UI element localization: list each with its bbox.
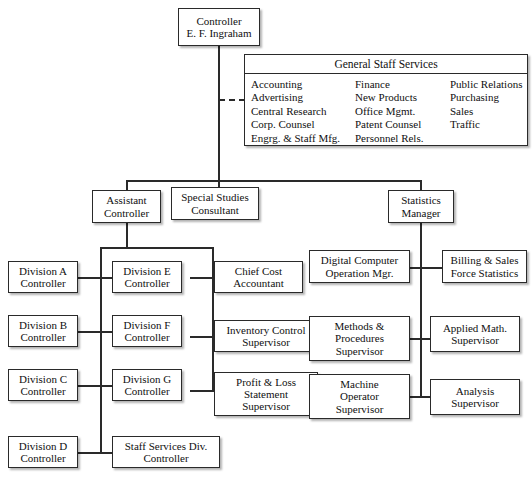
box-line: Digital Computer — [321, 254, 398, 266]
box-line: Procedures — [335, 332, 385, 344]
box-profit-loss-statement-supervisor[interactable]: Profit & Loss Statement Supervisor — [214, 372, 318, 416]
staff-item: Public Relations — [450, 78, 522, 91]
box-line: Statistics — [401, 194, 441, 206]
box-inventory-control-supervisor[interactable]: Inventory Control Supervisor — [214, 320, 318, 352]
box-line: Division C — [19, 373, 67, 385]
box-line: Applied Math. — [443, 322, 507, 334]
box-line: Controller — [19, 277, 67, 289]
staff-item: Personnel Rels. — [355, 132, 450, 145]
box-line: Operation Mgr. — [321, 267, 398, 279]
box-line: Supervisor — [335, 345, 385, 357]
staff-item: Advertising — [251, 91, 355, 104]
connector-staff-services-div-stub — [100, 452, 112, 454]
box-line: Supervisor — [451, 397, 499, 409]
staff-item: Accounting — [251, 78, 355, 91]
box-analysis-supervisor[interactable]: Analysis Supervisor — [430, 379, 520, 415]
box-division-f-controller[interactable]: Division F Controller — [112, 315, 182, 347]
staff-services-column-2: Finance New Products Office Mgmt. Patent… — [355, 78, 450, 145]
box-division-a-controller[interactable]: Division A Controller — [8, 261, 78, 293]
box-line: Controller — [123, 385, 172, 397]
general-staff-services-title: General Staff Services — [245, 55, 527, 74]
box-line: Billing & Sales — [451, 254, 519, 266]
box-line: Controller — [124, 331, 171, 343]
box-line: Accountant — [233, 277, 284, 289]
box-special-studies-consultant[interactable]: Special Studies Consultant — [171, 187, 259, 220]
staff-item: Finance — [355, 78, 450, 91]
box-line: Staff Services Div. — [125, 440, 207, 452]
staff-item: New Products — [355, 91, 450, 104]
connector-inventory-stub — [190, 336, 214, 338]
box-line: Machine — [336, 378, 384, 390]
box-line: Chief Cost — [233, 265, 284, 277]
box-division-b-controller[interactable]: Division B Controller — [8, 315, 78, 347]
box-division-c-controller[interactable]: Division C Controller — [8, 369, 78, 401]
staff-item: Purchasing — [450, 91, 522, 104]
box-staff-services-div-controller[interactable]: Staff Services Div. Controller — [112, 436, 220, 468]
box-line: Division F — [124, 319, 171, 331]
staff-services-column-1: Accounting Advertising Central Research … — [251, 78, 355, 145]
box-line: Division E — [123, 265, 170, 277]
box-line: Supervisor — [336, 403, 384, 415]
box-line: Controller — [125, 452, 207, 464]
box-line: Controller — [19, 385, 67, 397]
box-billing-sales-force-statistics[interactable]: Billing & Sales Force Statistics — [442, 250, 527, 283]
staff-item: Central Research — [251, 105, 355, 118]
staff-services-column-3: Public Relations Purchasing Sales Traffi… — [450, 78, 522, 145]
box-line: Force Statistics — [451, 267, 519, 279]
box-line: Inventory Control — [226, 324, 305, 336]
connector-division-f-stub — [100, 331, 112, 333]
connector-division-c-stub — [78, 385, 102, 387]
connector-billing-stub — [420, 267, 442, 269]
box-line: Methods & — [335, 320, 385, 332]
box-line: Assistant — [104, 194, 149, 206]
staff-item: Corp. Counsel — [251, 118, 355, 131]
box-line: Manager — [401, 207, 441, 219]
staff-item: Office Mgmt. — [355, 105, 450, 118]
box-line: Statement — [236, 388, 296, 400]
connector-division-e-stub — [100, 277, 112, 279]
general-staff-services-panel[interactable]: General Staff Services Accounting Advert… — [244, 54, 528, 146]
connector-division-d-stub — [78, 452, 102, 454]
staff-item: Sales — [450, 105, 522, 118]
connector-division-g-stub — [100, 385, 112, 387]
connector-staff-services-dashed — [219, 99, 245, 101]
box-applied-math-supervisor[interactable]: Applied Math. Supervisor — [430, 316, 520, 352]
box-line: Controller — [19, 331, 67, 343]
box-line: Supervisor — [443, 334, 507, 346]
box-line: Division B — [19, 319, 67, 331]
controller-title: Controller — [186, 15, 251, 27]
box-line: Division A — [19, 265, 67, 277]
staff-item: Traffic — [450, 118, 522, 131]
staff-item: Patent Counsel — [355, 118, 450, 131]
org-chart: Controller E. F. Ingraham General Staff … — [0, 0, 532, 479]
box-division-g-controller[interactable]: Division G Controller — [112, 369, 182, 401]
connector-second-level-bus — [126, 180, 422, 182]
box-assistant-controller[interactable]: Assistant Controller — [92, 190, 161, 223]
box-controller[interactable]: Controller E. F. Ingraham — [178, 8, 260, 46]
box-chief-cost-accountant[interactable]: Chief Cost Accountant — [214, 261, 303, 293]
box-division-e-controller[interactable]: Division E Controller — [112, 261, 182, 293]
box-line: Division G — [123, 373, 172, 385]
box-line: Supervisor — [236, 400, 296, 412]
box-statistics-manager[interactable]: Statistics Manager — [388, 190, 454, 223]
box-line: Profit & Loss — [236, 376, 296, 388]
box-line: Analysis — [451, 385, 499, 397]
box-line: Consultant — [181, 204, 249, 216]
connector-profit-loss-stub — [190, 390, 214, 392]
box-line: Operator — [336, 390, 384, 402]
box-line: Controller — [19, 452, 68, 464]
box-methods-procedures-supervisor[interactable]: Methods & Procedures Supervisor — [309, 316, 410, 361]
box-division-d-controller[interactable]: Division D Controller — [8, 436, 78, 468]
box-line: Controller — [123, 277, 170, 289]
box-line: Special Studies — [181, 191, 249, 203]
box-digital-computer-operation-mgr[interactable]: Digital Computer Operation Mgr. — [309, 250, 410, 283]
box-line: Supervisor — [226, 336, 305, 348]
box-machine-operator-supervisor[interactable]: Machine Operator Supervisor — [309, 374, 410, 419]
connector-assistant-down — [126, 222, 128, 248]
box-line: Division D — [19, 440, 68, 452]
connector-assistant-bus — [100, 247, 214, 249]
connector-chief-cost-stub — [190, 277, 214, 279]
controller-name: E. F. Ingraham — [186, 27, 251, 39]
staff-item: Engrg. & Staff Mfg. — [251, 132, 355, 145]
connector-statistics-spine — [420, 222, 422, 397]
